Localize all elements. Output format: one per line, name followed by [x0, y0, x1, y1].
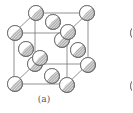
atom-corner-top-back-left [29, 6, 44, 21]
fcc-unit-cell-diagram [0, 0, 132, 113]
atom-left-face-center [19, 42, 34, 57]
atom-bottom-face-center [45, 69, 60, 84]
atom-corner-bottom-front-left [8, 77, 23, 92]
atom-top-face-center [46, 15, 61, 30]
atom-corner-top-back-right [80, 6, 95, 21]
atom-corner-bottom-front-right [60, 78, 75, 93]
atom-right-face-center [71, 43, 86, 58]
atom-next-figure-atom-2 [131, 79, 133, 94]
atom-corner-top-front-right [61, 25, 76, 40]
figure-caption: (a) [34, 94, 54, 104]
atoms [8, 6, 133, 94]
atom-corner-bottom-back-right [81, 58, 96, 73]
atom-corner-top-front-left [8, 26, 23, 41]
atom-next-figure-atom-1 [131, 26, 133, 41]
atom-front-face-center [33, 51, 48, 66]
